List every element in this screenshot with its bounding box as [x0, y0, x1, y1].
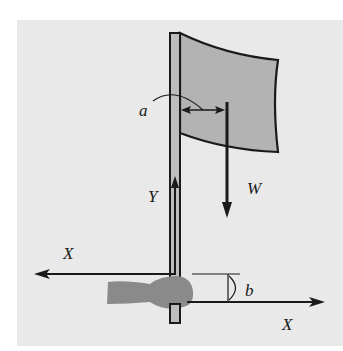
dimension-b-arc: [229, 276, 236, 300]
flagpole-bottom: [170, 304, 180, 323]
force-x-left-arrow: [34, 269, 175, 279]
label-x-right: X: [282, 316, 292, 333]
label-a: a: [139, 102, 148, 119]
label-x-left: X: [63, 245, 73, 262]
flagpole-free-body-diagram: [0, 0, 343, 351]
force-x-right-arrow: [187, 297, 325, 307]
label-w: W: [247, 180, 261, 197]
label-b: b: [245, 282, 254, 299]
label-y: Y: [148, 188, 157, 205]
flag: [180, 33, 278, 152]
